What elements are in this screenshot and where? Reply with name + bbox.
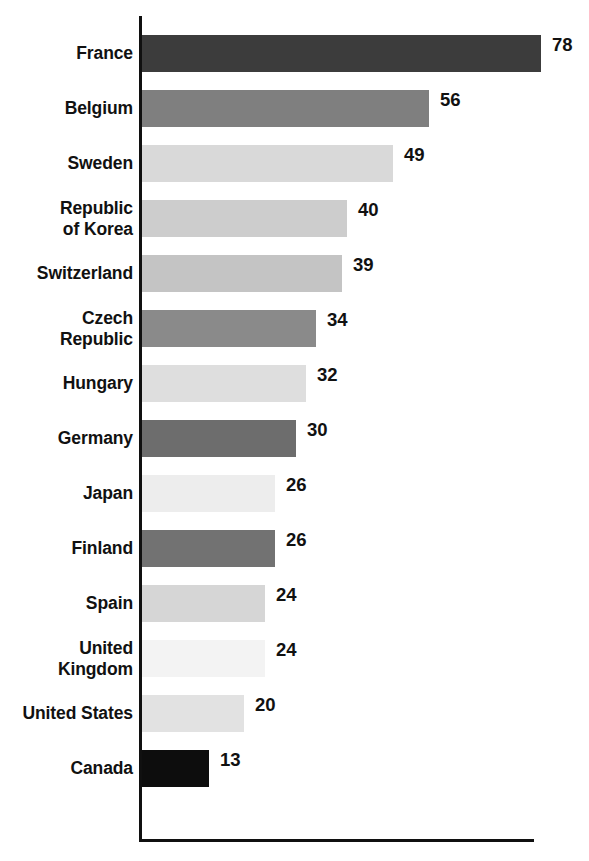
bar-track — [142, 145, 393, 182]
bar-row: Canada13 — [0, 741, 589, 796]
bar-value-label: 24 — [276, 631, 297, 668]
category-label-line: Spain — [86, 593, 133, 614]
bar-row: Finland26 — [0, 521, 589, 576]
category-label: Germany — [0, 411, 133, 466]
bar-row: France78 — [0, 26, 589, 81]
category-label-line: Switzerland — [37, 263, 133, 284]
category-label-line: Finland — [71, 538, 133, 559]
bar[interactable] — [142, 640, 265, 677]
category-label: Switzerland — [0, 246, 133, 301]
category-label-line: United States — [22, 703, 133, 724]
bar-track — [142, 750, 209, 787]
bar-track — [142, 530, 275, 567]
category-label: Belgium — [0, 81, 133, 136]
bar[interactable] — [142, 585, 265, 622]
bar-track — [142, 420, 296, 457]
bar[interactable] — [142, 475, 275, 512]
bar[interactable] — [142, 145, 393, 182]
bar-value-label: 20 — [255, 686, 276, 723]
bar-track — [142, 200, 347, 237]
bar[interactable] — [142, 255, 342, 292]
bar-value-label: 13 — [220, 741, 241, 778]
category-label: Sweden — [0, 136, 133, 191]
bar[interactable] — [142, 310, 316, 347]
category-label-line: Czech — [82, 308, 133, 329]
bar-row: Spain24 — [0, 576, 589, 631]
bar-row: Switzerland39 — [0, 246, 589, 301]
bar-track — [142, 255, 342, 292]
bar[interactable] — [142, 695, 244, 732]
category-label: Republicof Korea — [0, 191, 133, 246]
bar-track — [142, 35, 541, 72]
bar[interactable] — [142, 420, 296, 457]
category-label: CzechRepublic — [0, 301, 133, 356]
bar-chart: France78Belgium56Sweden49Republicof Kore… — [0, 0, 589, 861]
bar-row: CzechRepublic34 — [0, 301, 589, 356]
category-label: France — [0, 26, 133, 81]
bar-row: Belgium56 — [0, 81, 589, 136]
bar-value-label: 49 — [404, 136, 425, 173]
bar[interactable] — [142, 90, 429, 127]
bar[interactable] — [142, 750, 209, 787]
category-label-line: Sweden — [67, 153, 133, 174]
bar[interactable] — [142, 365, 306, 402]
bar-value-label: 26 — [286, 466, 307, 503]
bar-row: Sweden49 — [0, 136, 589, 191]
bar-value-label: 26 — [286, 521, 307, 558]
bar-row: Germany30 — [0, 411, 589, 466]
bar-track — [142, 90, 429, 127]
bar-value-label: 40 — [358, 191, 379, 228]
bar-track — [142, 310, 316, 347]
category-label: Hungary — [0, 356, 133, 411]
bar[interactable] — [142, 200, 347, 237]
category-label: UnitedKingdom — [0, 631, 133, 686]
bar[interactable] — [142, 35, 541, 72]
bar-row: Republicof Korea40 — [0, 191, 589, 246]
category-label: Spain — [0, 576, 133, 631]
category-label-line: France — [76, 43, 133, 64]
bar-row: Hungary32 — [0, 356, 589, 411]
category-label: Japan — [0, 466, 133, 521]
bar-value-label: 34 — [327, 301, 348, 338]
bar-track — [142, 640, 265, 677]
category-label-line: Kingdom — [58, 659, 133, 680]
bar-value-label: 56 — [440, 81, 461, 118]
bar-row: United States20 — [0, 686, 589, 741]
category-label: United States — [0, 686, 133, 741]
bar-value-label: 32 — [317, 356, 338, 393]
bar-row: Japan26 — [0, 466, 589, 521]
category-label-line: Belgium — [65, 98, 133, 119]
bar-rows-container: France78Belgium56Sweden49Republicof Kore… — [0, 0, 589, 861]
bar-value-label: 39 — [353, 246, 374, 283]
bar[interactable] — [142, 530, 275, 567]
category-label-line: Japan — [83, 483, 133, 504]
x-axis-line — [139, 839, 534, 842]
bar-value-label: 30 — [307, 411, 328, 448]
category-label-line: Republic — [60, 329, 133, 350]
category-label-line: Republic — [60, 198, 133, 219]
y-axis-line — [139, 16, 142, 842]
bar-track — [142, 365, 306, 402]
category-label-line: United — [79, 638, 133, 659]
category-label-line: of Korea — [63, 219, 133, 240]
bar-track — [142, 695, 244, 732]
bar-value-label: 78 — [552, 26, 573, 63]
category-label: Finland — [0, 521, 133, 576]
category-label-line: Canada — [70, 758, 133, 779]
category-label-line: Germany — [58, 428, 133, 449]
bar-track — [142, 475, 275, 512]
category-label-line: Hungary — [63, 373, 133, 394]
category-label: Canada — [0, 741, 133, 796]
bar-value-label: 24 — [276, 576, 297, 613]
bar-row: UnitedKingdom24 — [0, 631, 589, 686]
bar-track — [142, 585, 265, 622]
